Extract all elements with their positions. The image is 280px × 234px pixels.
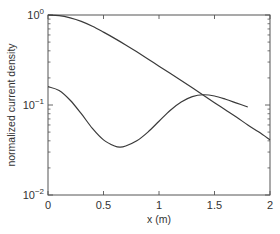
y-tick-label: 10−1 — [23, 97, 45, 111]
chart: 10−210−1100 00.511.52 x (m) normalized c… — [0, 0, 280, 234]
series-line-curve-2 — [48, 87, 248, 148]
y-tick-label: 10−2 — [23, 187, 45, 201]
x-tick-label: 2 — [267, 199, 273, 211]
x-tick-label: 0 — [45, 199, 51, 211]
x-axis-label: x (m) — [147, 213, 171, 225]
y-tick-label: 100 — [27, 7, 44, 21]
axes-box — [48, 15, 270, 195]
y-axis-ticks: 10−210−1100 — [23, 7, 270, 201]
x-axis-ticks: 00.511.52 — [45, 15, 273, 211]
plot-frame — [48, 15, 270, 195]
y-axis-label: normalized current density — [5, 43, 17, 167]
x-tick-label: 1 — [156, 199, 162, 211]
x-tick-label: 1.5 — [207, 199, 222, 211]
x-tick-label: 0.5 — [96, 199, 111, 211]
data-series — [48, 15, 270, 147]
